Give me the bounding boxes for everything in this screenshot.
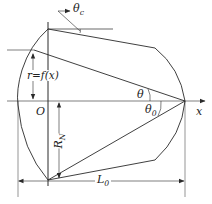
rn-label: RN [53,133,67,148]
theta0-label: θ0 [145,104,157,118]
theta-angle-arc [148,89,150,101]
theta0-angle-arc [158,101,161,116]
r-equation-label: r=f(x) [27,70,59,81]
theta0-ray [48,101,185,180]
origin-label: O [36,106,45,117]
l0-label: L0 [95,174,111,188]
x-axis-label: x [196,106,202,117]
theta-c-angle-arc [80,29,81,33]
top-chord [48,29,155,48]
theta-c-label: θc [73,3,84,17]
theta-label: θ [137,89,144,100]
